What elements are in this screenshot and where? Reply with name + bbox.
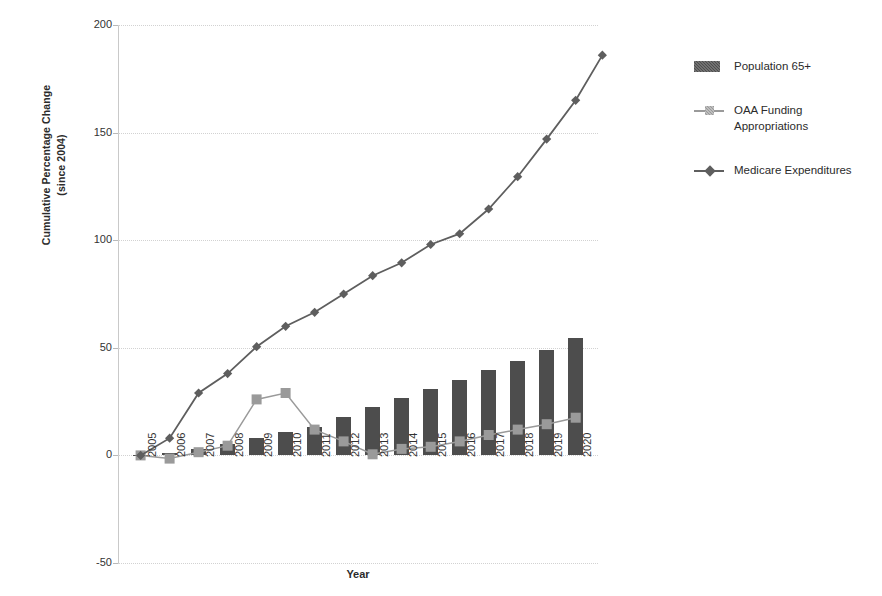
marker-medicare-end: [598, 51, 607, 60]
marker-oaa-2020: [571, 413, 581, 423]
x-tick-label-2019: 2019: [552, 433, 564, 457]
x-tick-label-2014: 2014: [407, 433, 419, 457]
marker-oaa-2018: [513, 425, 523, 435]
chart-container: Cumulative Percentage Change (since 2004…: [0, 0, 882, 596]
y-axis-title-line2: (since 2004): [54, 15, 69, 315]
x-tick-label-2012: 2012: [349, 433, 361, 457]
legend-label-medicare: Medicare Expenditures: [734, 162, 852, 178]
x-tick-label-2010: 2010: [291, 433, 303, 457]
legend-item-medicare: Medicare Expenditures: [694, 162, 880, 178]
marker-oaa-2016: [455, 436, 465, 446]
marker-medicare-2015: [426, 240, 435, 249]
x-tick-label-2006: 2006: [175, 433, 187, 457]
line-path-medicare: [141, 55, 603, 455]
marker-oaa-2008: [223, 441, 233, 451]
legend-item-oaa-funding: OAA Funding Appropriations: [694, 102, 880, 134]
marker-oaa-2012: [339, 436, 349, 446]
marker-oaa-2015: [426, 442, 436, 452]
marker-medicare-2014: [397, 258, 406, 267]
y-axis-title: Cumulative Percentage Change (since 2004…: [39, 15, 69, 315]
marker-oaa-2014: [397, 444, 407, 454]
x-tick-label-2020: 2020: [581, 433, 593, 457]
y-axis-title-line1: Cumulative Percentage Change: [39, 15, 54, 315]
x-axis-title: Year: [118, 568, 598, 580]
legend-label-oaa-line2: Appropriations: [734, 118, 808, 134]
marker-oaa-2009: [252, 394, 262, 404]
legend-label-population-65plus: Population 65+: [734, 58, 811, 74]
legend-item-population-65plus: Population 65+: [694, 58, 880, 74]
x-tick-label-2008: 2008: [233, 433, 245, 457]
marker-medicare-2011: [310, 308, 319, 317]
y-tick-label-0: 0: [74, 448, 112, 460]
marker-medicare-2013: [368, 271, 377, 280]
x-tick-label-2009: 2009: [262, 433, 274, 457]
y-tick-label-200: 200: [74, 18, 112, 30]
diamond-marker-icon: [694, 164, 724, 177]
gridline--50: [118, 563, 598, 564]
marker-oaa-2017: [484, 430, 494, 440]
x-tick-label-2013: 2013: [378, 433, 390, 457]
x-tick-label-2007: 2007: [204, 433, 216, 457]
y-tick-label-100: 100: [74, 233, 112, 245]
y-tick-label--50: -50: [74, 556, 112, 568]
x-tick-label-2011: 2011: [320, 433, 332, 457]
x-tick-label-2018: 2018: [523, 433, 535, 457]
x-tick-label-2017: 2017: [494, 433, 506, 457]
x-axis-tick-labels: 2005200620072008200920102011201220132014…: [118, 455, 598, 515]
y-tickmark--50: [113, 563, 118, 564]
x-tick-label-2016: 2016: [465, 433, 477, 457]
x-tick-label-2015: 2015: [436, 433, 448, 457]
x-tick-label-2005: 2005: [146, 433, 158, 457]
chart-legend: Population 65+ OAA Funding Appropriation…: [694, 58, 880, 178]
bar-swatch-icon: [694, 60, 724, 73]
marker-oaa-2019: [542, 419, 552, 429]
square-marker-icon: [694, 104, 724, 117]
marker-oaa-2011: [310, 425, 320, 435]
marker-medicare-2006: [165, 434, 174, 443]
y-tick-label-50: 50: [74, 341, 112, 353]
legend-label-oaa-line1: OAA Funding: [734, 102, 808, 118]
legend-label-oaa-funding: OAA Funding Appropriations: [734, 102, 808, 134]
marker-oaa-2010: [281, 388, 291, 398]
y-tick-label-150: 150: [74, 126, 112, 138]
marker-medicare-2012: [339, 289, 348, 298]
